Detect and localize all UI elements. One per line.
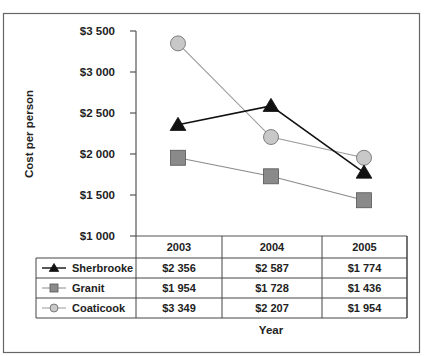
legend-marker-circle-icon bbox=[50, 304, 58, 312]
data-point-coaticook bbox=[264, 130, 279, 145]
data-point-granit bbox=[357, 193, 372, 208]
data-point-granit bbox=[171, 150, 186, 165]
table-cell: $1 436 bbox=[348, 282, 382, 294]
table-cell: $1 954 bbox=[162, 282, 197, 294]
table-cell: $1 774 bbox=[348, 262, 383, 274]
y-tick-label: $2 500 bbox=[80, 107, 115, 119]
legend-label: Sherbrooke bbox=[72, 262, 133, 274]
legend-label: Granit bbox=[72, 282, 105, 294]
y-tick-label: $3 500 bbox=[80, 25, 115, 37]
table-cell: $1 954 bbox=[348, 302, 383, 314]
y-axis-label: Cost per person bbox=[23, 90, 35, 178]
table-cell: $3 349 bbox=[162, 302, 196, 314]
table-header-2004: 2004 bbox=[260, 241, 285, 253]
y-tick-label: $1 000 bbox=[80, 230, 115, 242]
legend-marker-square-icon bbox=[50, 284, 58, 292]
table-cell: $2 356 bbox=[162, 262, 196, 274]
chart: $1 000$1 500$2 000$2 500$3 000$3 500 Cos… bbox=[0, 0, 424, 356]
table-cell: $1 728 bbox=[255, 282, 289, 294]
x-axis-label: Year bbox=[259, 324, 284, 336]
y-tick-label: $2 000 bbox=[80, 148, 115, 160]
y-tick-label: $3 000 bbox=[80, 66, 115, 78]
data-point-granit bbox=[264, 169, 279, 184]
table-header-2005: 2005 bbox=[352, 241, 376, 253]
y-tick-label: $1 500 bbox=[80, 189, 115, 201]
table-header-2003: 2003 bbox=[167, 241, 191, 253]
data-point-coaticook bbox=[171, 36, 186, 51]
table-cell: $2 207 bbox=[255, 302, 289, 314]
table-cell: $2 587 bbox=[255, 262, 289, 274]
legend-label: Coaticook bbox=[72, 302, 126, 314]
data-point-coaticook bbox=[357, 150, 372, 165]
